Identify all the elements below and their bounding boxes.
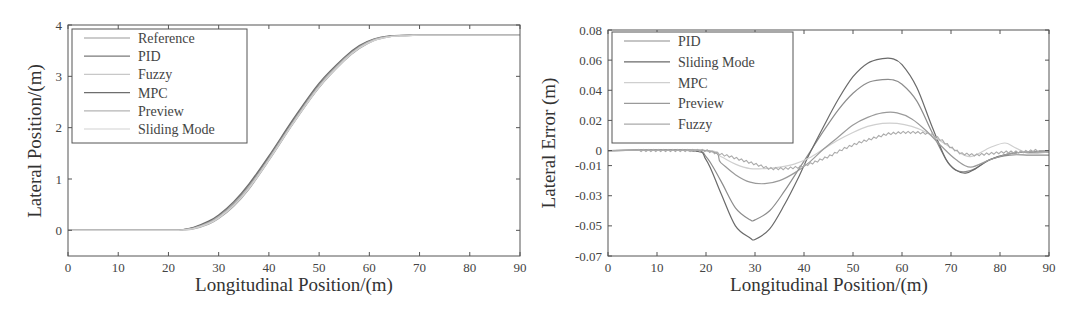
x-tick-label: 90: [1043, 260, 1056, 275]
x-tick-label: 50: [847, 260, 860, 275]
x-tick-label: 40: [798, 260, 811, 275]
x-tick-label: 70: [413, 260, 426, 275]
y-tick-label: -0.01: [575, 158, 602, 173]
legend-label: Preview: [678, 96, 725, 111]
legend-label: PID: [138, 49, 161, 64]
y-tick-label: 0.06: [579, 53, 602, 68]
legend-label: Fuzzy: [678, 117, 712, 132]
y-tick-label: 0: [596, 143, 603, 158]
y-tick-label: -0.07: [575, 249, 603, 264]
y-tick-label: 2: [56, 120, 63, 135]
x-tick-label: 0: [65, 260, 72, 275]
y-tick-label: 3: [56, 69, 63, 84]
lateral-position-chart: 010203040506070809001234 ReferencePIDFuz…: [24, 18, 527, 297]
y-tick-label: 0.04: [579, 83, 602, 98]
x-tick-label: 80: [463, 260, 476, 275]
legend-label: Reference: [138, 31, 195, 46]
x-tick-label: 80: [994, 260, 1007, 275]
y-tick-label: -0.05: [575, 218, 602, 233]
x-axis-label: Longitudinal Position/(m): [195, 274, 393, 296]
x-axis-label: Longitudinal Position/(m): [730, 274, 928, 296]
legend-label: Sliding Mode: [138, 122, 215, 137]
y-tick-label: 0: [56, 223, 63, 238]
x-tick-label: 10: [651, 260, 664, 275]
legend-label: PID: [678, 34, 701, 49]
lateral-error-chart: 01020304050607080900.080.060.040.020-0.0…: [538, 23, 1056, 297]
legend: ReferencePIDFuzzyMPCPreviewSliding Mode: [72, 29, 247, 143]
x-tick-label: 90: [514, 260, 527, 275]
figure: 010203040506070809001234 ReferencePIDFuz…: [0, 0, 1075, 314]
legend-label: Sliding Mode: [678, 55, 755, 70]
x-tick-label: 10: [112, 260, 125, 275]
x-tick-label: 20: [162, 260, 175, 275]
y-tick-label: 0.08: [579, 23, 602, 38]
x-tick-label: 40: [262, 260, 275, 275]
y-tick-label: 0.02: [579, 113, 602, 128]
x-tick-label: 20: [700, 260, 713, 275]
legend-label: MPC: [138, 86, 168, 101]
x-tick-label: 50: [313, 260, 326, 275]
legend-label: Fuzzy: [138, 67, 172, 82]
x-tick-label: 70: [945, 260, 958, 275]
x-tick-label: 60: [896, 260, 909, 275]
y-axis-label: Lateral Position/(m): [24, 64, 46, 218]
y-axis-label: Lateral Error (m): [538, 78, 560, 209]
legend: PIDSliding ModeMPCPreviewFuzzy: [612, 32, 793, 143]
y-tick-label: -0.03: [575, 188, 602, 203]
x-tick-label: 30: [749, 260, 762, 275]
y-tick-label: 4: [56, 18, 63, 33]
x-tick-label: 0: [605, 260, 612, 275]
legend-label: Preview: [138, 104, 185, 119]
x-tick-label: 30: [212, 260, 225, 275]
y-tick-label: 1: [56, 172, 63, 187]
x-tick-label: 60: [363, 260, 376, 275]
legend-label: MPC: [678, 76, 708, 91]
